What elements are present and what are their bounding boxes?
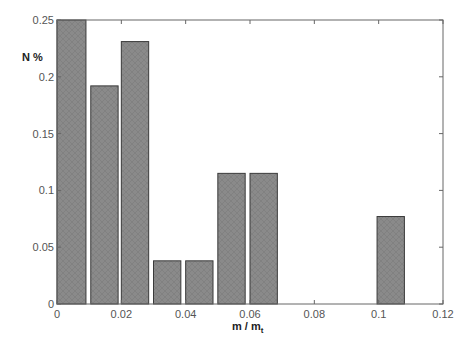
bar-3 (154, 261, 181, 304)
histogram-chart: 00.050.10.150.20.25 00.020.040.060.080.1… (0, 0, 471, 350)
bar-6 (250, 173, 277, 304)
x-tick-label: 0.06 (239, 308, 260, 320)
x-tick-label: 0.04 (175, 308, 196, 320)
x-axis-label-sub: t (261, 326, 264, 335)
y-tick-label: 0.1 (39, 184, 54, 196)
x-tick-label: 0.12 (432, 308, 453, 320)
y-tick-label: 0.15 (33, 128, 54, 140)
x-axis-label: m / mt (232, 320, 264, 335)
y-tick-label: 0.25 (33, 14, 54, 26)
x-tick-label: 0.1 (371, 308, 386, 320)
x-axis-label-main: m / m (232, 320, 261, 332)
bar-7 (377, 217, 404, 304)
bar-0 (57, 20, 86, 304)
y-tick-label: 0.2 (39, 71, 54, 83)
x-tick-label: 0.02 (111, 308, 132, 320)
y-axis-label: N % (22, 51, 43, 63)
x-tick-label: 0.08 (304, 308, 325, 320)
bar-2 (121, 42, 148, 304)
x-tick-label: 0 (54, 308, 60, 320)
y-tick-label: 0.05 (33, 241, 54, 253)
bar-1 (91, 86, 118, 304)
bar-4 (186, 261, 213, 304)
bar-5 (218, 173, 245, 304)
